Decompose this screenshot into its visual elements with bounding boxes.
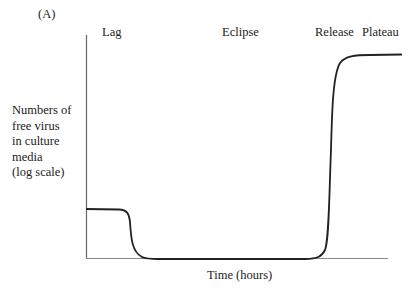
chart-plot [0, 0, 410, 293]
growth-curve [86, 55, 402, 260]
